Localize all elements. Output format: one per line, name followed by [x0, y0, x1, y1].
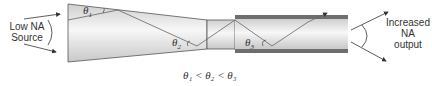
- subscript: 2: [177, 43, 181, 51]
- subscript: 1: [88, 11, 92, 19]
- label-line: Source: [5, 32, 49, 43]
- theta2-label: θ2: [172, 36, 181, 51]
- label-line: output: [383, 39, 432, 50]
- input-arrow-bottom: [24, 44, 56, 52]
- input-arrow-top: [24, 14, 60, 19]
- output-angle-arc: [362, 25, 367, 47]
- label-line: NA: [383, 28, 432, 39]
- theta1-label: θ1: [83, 4, 92, 19]
- low-na-source-label: Low NA Source: [5, 21, 49, 43]
- subscript: 3: [250, 43, 254, 51]
- label-line: Low NA: [5, 21, 49, 32]
- angle-inequality: θ₁ < θ₂ < θ₃: [183, 69, 237, 81]
- theta3-label: θ3: [245, 36, 254, 51]
- output-arrow-bottom: [351, 42, 386, 61]
- straight-section: [207, 20, 235, 49]
- label-line: Increased: [383, 17, 432, 28]
- increased-na-output-label: Increased NA output: [383, 17, 432, 50]
